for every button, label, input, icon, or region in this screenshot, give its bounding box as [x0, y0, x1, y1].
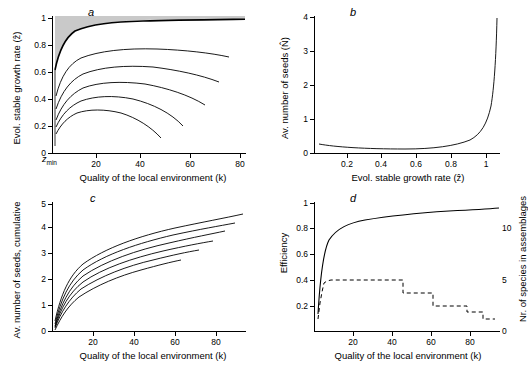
panel-a-ytick-label-5: 1: [28, 13, 46, 23]
curve-5: [56, 97, 183, 127]
panel-c-xtick-label-80: 80: [206, 337, 226, 347]
panel-b-ylabel: Av. number of seeds (N̂): [280, 18, 290, 158]
panel-c-xtick-60: [175, 332, 176, 336]
panel-b-ytick-label-4: 4: [292, 12, 308, 22]
panel-d-ytick2-label-10: 10: [502, 223, 518, 233]
panel-a: a Evol. stable growth rate (ẑ) 0 0.2 0.…: [0, 0, 270, 190]
panel-a-plot: [52, 16, 246, 154]
panel-a-xtick-20: [96, 154, 97, 158]
panel-d-xtick-60: [431, 332, 432, 336]
panel-a-xlabel: Quality of the local environment (k): [48, 173, 258, 183]
panel-b-ytick-label-3: 3: [292, 46, 308, 56]
panel-c-ytick-label-0: 0: [30, 326, 46, 336]
panel-c-xlabel: Quality of the local environment (k): [48, 351, 258, 361]
panel-a-ytick-5: [48, 18, 52, 19]
panel-b-ytick-label-0: 0: [292, 148, 308, 158]
panel-a-xtick-label-60: 60: [180, 159, 200, 169]
panel-d-ytick-label-1: 1: [287, 198, 308, 208]
panel-c-ytick-0: [48, 331, 52, 332]
panel-b-ytick-2: [310, 85, 314, 86]
panel-c-ytick-5: [48, 204, 52, 205]
panel-d-ytick-04: [310, 280, 314, 281]
panel-a-ytick-label-2: 0.4: [24, 94, 46, 104]
panel-a-ytick-3: [48, 72, 52, 73]
panel-d-curves: [315, 202, 501, 332]
panel-a-ytick-label-4: 0.8: [24, 40, 46, 50]
efficiency-curve: [318, 208, 499, 314]
panel-a-ytick-2: [48, 99, 52, 100]
panel-b-plot: [314, 16, 500, 154]
seeds-vs-growth: [319, 18, 497, 149]
panel-b-xtick-1: [486, 154, 487, 158]
panel-d-xtick-80: [470, 332, 471, 336]
panel-a-ytick-label-1: 0.2: [24, 121, 46, 131]
panel-d-ytick-label-06: 0.6: [287, 249, 308, 259]
panel-b-ytick-3: [310, 51, 314, 52]
panel-c-plot: [52, 202, 246, 332]
species-count-curve: [318, 280, 495, 319]
cum-3: [55, 231, 225, 326]
panel-c-ytick-label-4: 4: [30, 222, 46, 232]
panel-b-ytick-label-1: 1: [292, 114, 308, 124]
panel-b-ytick-1: [310, 119, 314, 120]
panel-c-ytick-label-5: 5: [30, 199, 46, 209]
panel-c: c Av. number of seeds, cumulative 0 1 2 …: [0, 188, 270, 374]
panel-b-curves: [315, 16, 501, 154]
panel-b: b Av. number of seeds (N̂) 0 1 2 3 4 0.2…: [268, 0, 526, 190]
panel-a-xtick-label-80: 80: [230, 159, 250, 169]
panel-a-ytick-4: [48, 45, 52, 46]
panel-c-xtick-20: [93, 332, 94, 336]
panel-b-xtick-label-02: 0.2: [335, 159, 359, 169]
panel-c-ytick-label-2: 2: [30, 274, 46, 284]
panel-a-curves: [53, 16, 247, 154]
panel-c-ylabel: Av. number of seeds, cumulative: [12, 200, 22, 340]
panel-d: d Efficiency Nr. of species in assemblag…: [268, 188, 526, 374]
panel-c-ytick-4: [48, 227, 52, 228]
panel-b-xtick-label-04: 0.4: [369, 159, 393, 169]
panel-a-xtick-60: [190, 154, 191, 158]
panel-b-xtick-02: [347, 154, 348, 158]
panel-b-ytick-0: [310, 153, 314, 154]
cum-4: [55, 241, 213, 327]
panel-a-xtick-label-40: 40: [130, 159, 150, 169]
panel-b-ytick-label-2: 2: [292, 80, 308, 90]
panel-c-curves: [53, 202, 247, 332]
panel-a-zmin-label: zmin: [42, 154, 57, 166]
panel-c-ytick-3: [48, 253, 52, 254]
panel-d-xtick-label-60: 60: [421, 337, 441, 347]
panel-b-xtick-06: [416, 154, 417, 158]
panel-a-xtick-label-20: 20: [86, 159, 106, 169]
zmin-sub: min: [47, 159, 57, 166]
panel-b-xtick-label-06: 0.6: [404, 159, 428, 169]
cum-5: [55, 250, 199, 328]
panel-a-xtick-80: [240, 154, 241, 158]
panel-b-xtick-08: [451, 154, 452, 158]
panel-d-ytick-label-02: 0.2: [287, 301, 308, 311]
panel-c-xtick-label-60: 60: [165, 337, 185, 347]
panel-c-ytick-label-3: 3: [30, 248, 46, 258]
panel-d-ytick-08: [310, 228, 314, 229]
panel-d-xtick-40: [392, 332, 393, 336]
cum-2: [55, 223, 235, 324]
panel-b-xtick-04: [381, 154, 382, 158]
panel-d-xtick-label-80: 80: [460, 337, 480, 347]
panel-d-xtick-label-20: 20: [343, 337, 363, 347]
panel-c-xtick-40: [134, 332, 135, 336]
panel-a-ytick-1: [48, 126, 52, 127]
panel-d-ytick2-label-0: 0: [502, 326, 516, 336]
panel-c-xtick-label-20: 20: [83, 337, 103, 347]
panel-c-ytick-label-1: 1: [30, 300, 46, 310]
panel-d-xlabel: Quality of the local environment (k): [310, 351, 506, 361]
curve-3: [56, 66, 219, 109]
panel-b-ytick-4: [310, 17, 314, 18]
panel-d-ytick-label-08: 0.8: [287, 223, 308, 233]
panel-a-ylabel: Evol. stable growth rate (ẑ): [12, 18, 22, 158]
panel-c-xtick-label-40: 40: [124, 337, 144, 347]
panel-c-ytick-1: [48, 305, 52, 306]
panel-b-xlabel: Evol. stable growth rate (ẑ): [310, 173, 506, 183]
panel-d-ytick-06: [310, 254, 314, 255]
panel-c-xtick-80: [216, 332, 217, 336]
panel-b-xtick-label-08: 0.8: [439, 159, 463, 169]
panel-d-ytick-1: [310, 203, 314, 204]
panel-d-xtick-20: [353, 332, 354, 336]
